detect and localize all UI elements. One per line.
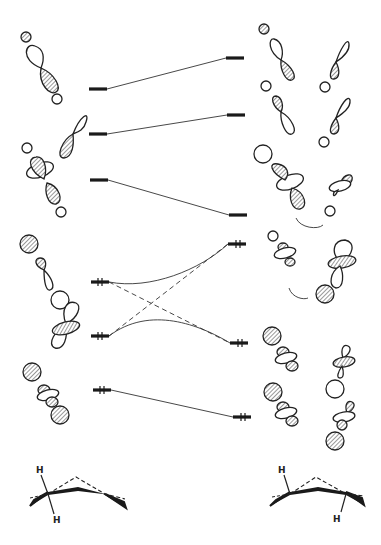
left-orbital-1 [21,32,62,104]
right-orbital-4b [316,240,357,303]
right-orbital-1a [259,24,294,80]
h-label-top: H [278,465,286,475]
right-structure: H H [270,465,364,524]
correlation-lines [107,58,233,417]
right-levels [226,58,251,417]
h-label-bottom: H [53,515,61,525]
h-label-top: H [36,465,44,475]
right-orbital-6b [326,401,356,450]
right-orbital-5b [326,346,356,399]
h-label-bottom: H [333,514,341,524]
left-orbital-6 [23,363,69,424]
electron-pairs [98,240,245,421]
left-orbital-4 [20,235,69,309]
right-orbital-2a [261,81,294,134]
right-orbital-5a [263,327,298,371]
left-orbital-2 [60,116,87,158]
interaction-arrow-2 [289,288,308,299]
left-orbital-5 [51,302,81,348]
right-orbital-6a [264,383,298,426]
interaction-arrow-1 [296,218,323,228]
correlation-diagram: H H H H [0,0,381,545]
left-structure: H H [30,465,126,525]
right-orbital-2b [319,98,350,147]
right-orbital-1b [320,42,349,92]
right-orbital-3b [325,175,352,216]
right-orbital-3a [254,145,306,209]
right-orbital-4a [268,231,297,266]
